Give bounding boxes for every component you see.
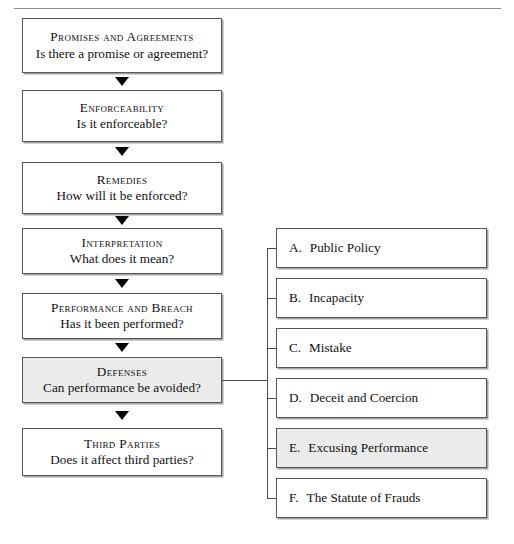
- flow-step-question: Can performance be avoided?: [43, 380, 201, 395]
- flow-step-title: Defenses: [97, 365, 147, 380]
- spine-to-option-connector: [267, 398, 276, 399]
- flow-step-question: How will it be enforced?: [56, 188, 187, 203]
- header-rule-divider: [14, 8, 501, 9]
- flow-step-title: Promises and Agreements: [50, 30, 193, 45]
- flow-down-arrow-icon: [115, 411, 129, 420]
- flow-down-arrow-icon: [115, 279, 129, 288]
- flow-step-title: Remedies: [97, 173, 148, 188]
- spine-to-option-connector: [267, 448, 276, 449]
- flow-down-arrow-icon: [115, 77, 129, 86]
- page-header: II. CHOOSING THE CHAPTERS: [0, 0, 514, 14]
- flow-step-title: Third Parties: [84, 437, 160, 452]
- chapter-title: II. CHOOSING THE CHAPTERS: [14, 0, 236, 4]
- defense-option-letter: A.: [277, 240, 302, 256]
- options-vertical-spine: [267, 248, 268, 498]
- defense-option-box[interactable]: F.The Statute of Frauds: [276, 478, 487, 518]
- defense-option-letter: F.: [277, 490, 299, 506]
- defenses-to-spine-connector: [222, 380, 267, 381]
- defense-option-box[interactable]: A.Public Policy: [276, 228, 487, 268]
- defense-option-letter: B.: [277, 290, 301, 306]
- flow-down-arrow-icon: [115, 147, 129, 156]
- spine-to-option-connector: [267, 348, 276, 349]
- defense-option-label: Public Policy: [302, 240, 381, 256]
- defense-option-label: The Statute of Frauds: [299, 490, 421, 506]
- flow-step-box[interactable]: DefensesCan performance be avoided?: [22, 357, 222, 403]
- flow-step-box[interactable]: EnforceabilityIs it enforceable?: [22, 90, 222, 142]
- flow-step-question: Is it enforceable?: [77, 116, 168, 131]
- flow-down-arrow-icon: [115, 343, 129, 352]
- spine-to-option-connector: [267, 248, 276, 249]
- flow-step-question: Is there a promise or agreement?: [36, 46, 208, 61]
- defense-option-label: Deceit and Coercion: [302, 390, 418, 406]
- flow-step-title: Performance and Breach: [51, 301, 193, 316]
- defense-option-box[interactable]: D.Deceit and Coercion: [276, 378, 487, 418]
- flow-step-question: Has it been performed?: [60, 316, 183, 331]
- flow-step-box[interactable]: Third PartiesDoes it affect third partie…: [22, 428, 222, 476]
- defense-option-label: Excusing Performance: [300, 440, 428, 456]
- defense-option-label: Mistake: [301, 340, 352, 356]
- flow-down-arrow-icon: [115, 216, 129, 225]
- flow-step-title: Enforceability: [80, 101, 164, 116]
- defense-option-box[interactable]: C.Mistake: [276, 328, 487, 368]
- defense-option-letter: E.: [277, 440, 300, 456]
- flow-step-box[interactable]: Performance and BreachHas it been perfor…: [22, 293, 222, 339]
- flow-step-question: Does it affect third parties?: [50, 452, 193, 467]
- defense-option-box[interactable]: B.Incapacity: [276, 278, 487, 318]
- flow-step-title: Interpretation: [81, 236, 162, 251]
- flow-step-box[interactable]: InterpretationWhat does it mean?: [22, 228, 222, 274]
- defense-option-letter: C.: [277, 340, 301, 356]
- spine-to-option-connector: [267, 498, 276, 499]
- defense-option-letter: D.: [277, 390, 302, 406]
- spine-to-option-connector: [267, 298, 276, 299]
- flow-step-box[interactable]: RemediesHow will it be enforced?: [22, 162, 222, 214]
- flow-step-box[interactable]: Promises and AgreementsIs there a promis…: [22, 18, 222, 73]
- defense-option-label: Incapacity: [301, 290, 364, 306]
- defense-option-box[interactable]: E.Excusing Performance: [276, 428, 487, 468]
- flow-step-question: What does it mean?: [70, 251, 174, 266]
